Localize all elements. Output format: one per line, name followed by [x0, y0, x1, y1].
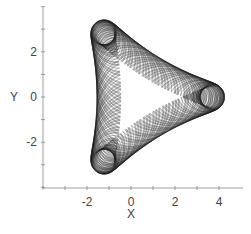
orbit-curve [91, 20, 225, 174]
tick-labels: -202420-2 [26, 45, 222, 209]
orbit-trajectory [91, 20, 225, 174]
x-tick-label: 2 [172, 195, 179, 209]
y-tick-label: 0 [30, 90, 37, 104]
x-tick-label: 4 [216, 195, 223, 209]
x-axis-title: X [127, 207, 135, 221]
y-tick-label: 2 [30, 45, 37, 59]
y-tick-label: -2 [26, 135, 37, 149]
y-axis-title: Y [10, 90, 18, 104]
x-tick-label: -2 [82, 195, 93, 209]
orbit-plot: -202420-2 X Y [0, 0, 251, 234]
